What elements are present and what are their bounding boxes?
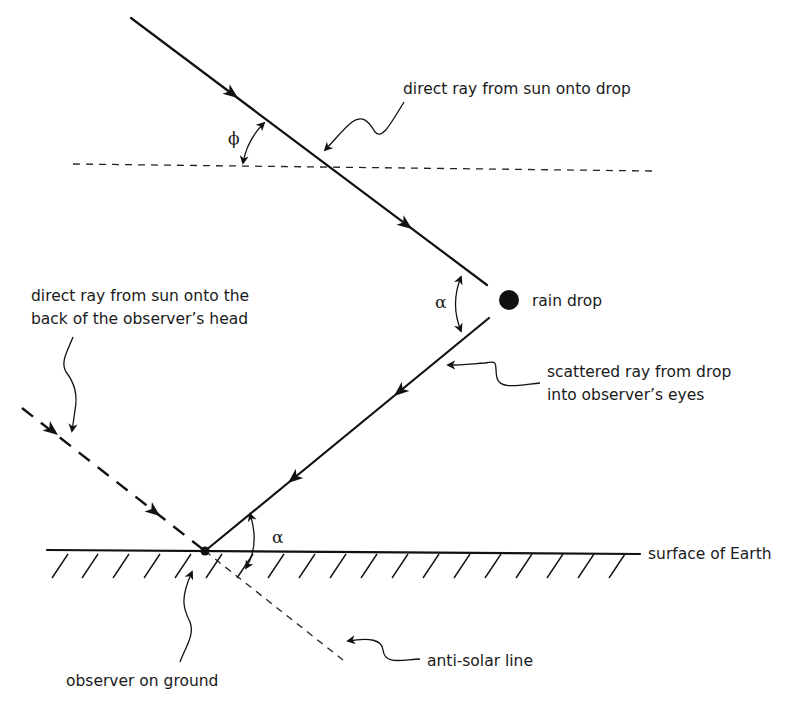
earth-surface-label: surface of Earth — [648, 545, 772, 563]
observer-pointer — [180, 572, 192, 662]
scattered-ray — [205, 318, 489, 551]
alpha-drop-label: α — [435, 292, 447, 312]
horizontal-reference-line — [73, 164, 652, 171]
direct-ray-head-pointer — [64, 337, 76, 431]
ground-hatching — [52, 554, 625, 578]
anti-solar-line — [205, 551, 343, 660]
alpha-ground-label: α — [272, 527, 284, 547]
observer-point — [201, 547, 210, 556]
anti-solar-label: anti-solar line — [427, 652, 533, 670]
alpha-ground-angle-arc — [246, 514, 254, 568]
scattered-ray-label-line1: scattered ray from drop — [547, 363, 731, 381]
observer-label: observer on ground — [66, 672, 218, 690]
anti-solar-pointer — [348, 639, 420, 660]
phi-label: ϕ — [228, 128, 240, 148]
rain-drop — [499, 290, 519, 310]
scattered-ray-label-line2: into observer’s eyes — [547, 386, 704, 404]
direct-ray-to-drop — [131, 18, 487, 285]
rainbow-geometry-diagram: ϕ direct ray from sun onto drop rain dro… — [0, 0, 806, 710]
alpha-drop-angle-arc — [456, 277, 462, 331]
phi-angle-arc — [243, 123, 264, 163]
scattered-ray-pointer — [448, 362, 540, 386]
earth-surface-line — [47, 550, 640, 554]
rain-drop-label: rain drop — [532, 292, 602, 310]
direct-ray-drop-label: direct ray from sun onto drop — [403, 80, 631, 98]
ray-arrow-icon — [42, 421, 61, 440]
direct-ray-drop-pointer — [325, 102, 404, 150]
direct-ray-head-label-line1: direct ray from sun onto the — [31, 287, 249, 305]
direct-ray-head-label-line2: back of the observer’s head — [31, 310, 248, 328]
